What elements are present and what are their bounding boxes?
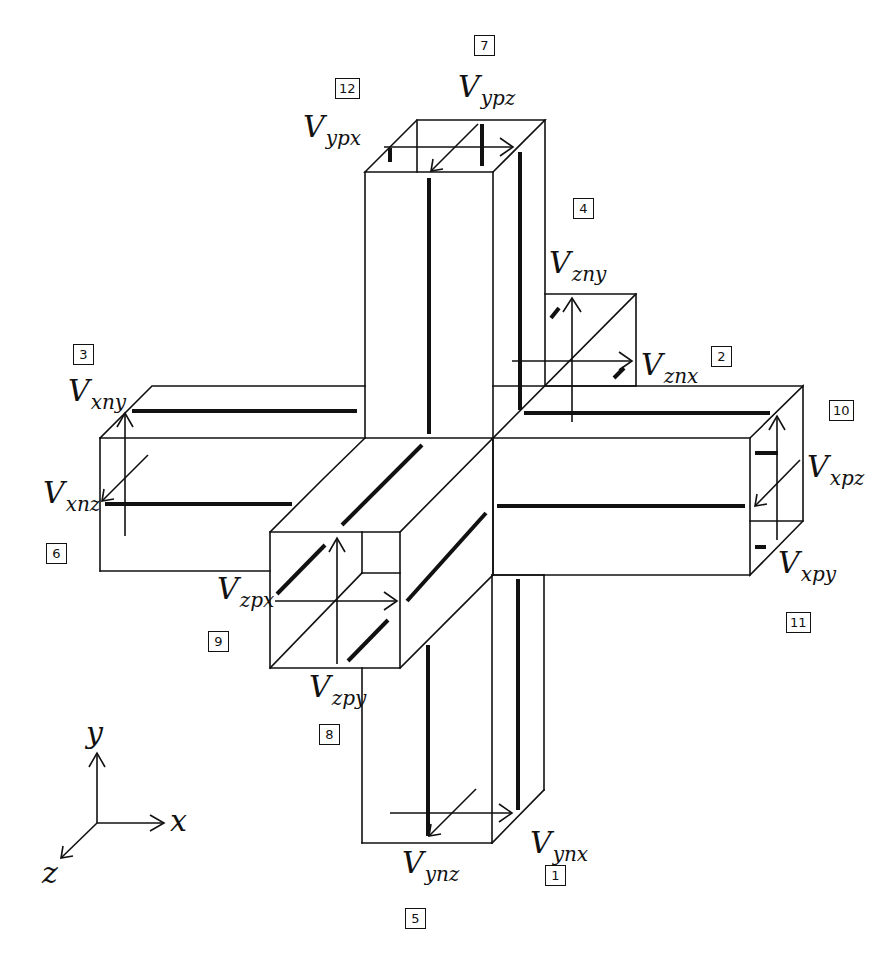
upper-arm (365, 120, 545, 438)
label-vxny: Vxny (68, 376, 126, 406)
label-vxnz: Vxnz (43, 478, 100, 508)
label-sub: xnz (66, 492, 101, 516)
label-vypz: Vypz (458, 72, 515, 102)
port-number-8: 8 (319, 724, 340, 745)
axis-label-x: x (170, 806, 187, 836)
label-sub: xpy (801, 562, 836, 586)
port-number-12: 12 (335, 78, 360, 99)
label-vxpy: Vxpy (778, 548, 836, 578)
label-vynz: Vynz (402, 848, 459, 878)
port-number-9: 9 (208, 631, 229, 652)
label-vzpy: Vzpy (309, 672, 366, 702)
label-sub: zpx (240, 588, 275, 612)
back-arm-zn (493, 294, 636, 438)
label-sub: xny (91, 390, 126, 414)
label-main: V (778, 545, 800, 580)
axis-label-z: z (42, 858, 58, 888)
label-main: V (530, 825, 552, 860)
port-number-11: 11 (786, 612, 811, 633)
label-vxpz: Vxpz (807, 452, 864, 482)
label-main: V (303, 109, 325, 144)
port-number-5: 5 (405, 908, 426, 929)
label-vznx: Vznx (641, 350, 698, 380)
label-sub: zny (572, 262, 607, 286)
port-number-7: 7 (474, 35, 495, 56)
port-number-1: 1 (545, 865, 566, 886)
front-arm-zp (270, 438, 493, 668)
label-sub: ynx (553, 842, 588, 866)
label-main: V (549, 245, 571, 280)
axis-label-y: y (86, 718, 103, 748)
left-arm-xn (100, 386, 365, 571)
label-sub: znx (664, 364, 699, 388)
label-main: V (402, 845, 424, 880)
port-number-3: 3 (73, 344, 94, 365)
label-vzny: Vzny (549, 248, 606, 278)
label-sub: ynz (425, 862, 460, 886)
label-sub: zpy (332, 686, 367, 710)
label-vzpx: Vzpx (217, 574, 274, 604)
coordinate-axes (61, 753, 164, 858)
label-sub: ypx (326, 126, 361, 150)
label-sub: ypz (481, 86, 516, 110)
label-main: V (217, 571, 239, 606)
port-number-4: 4 (573, 198, 594, 219)
label-vypx: Vypx (303, 112, 361, 142)
port-number-6: 6 (46, 543, 67, 564)
junction-diagram (0, 0, 887, 968)
label-main: V (641, 347, 663, 382)
label-sub: xpz (830, 466, 865, 490)
right-arm-xp (493, 386, 803, 575)
label-main: V (458, 69, 480, 104)
label-main: V (309, 669, 331, 704)
port-number-2: 2 (711, 346, 732, 367)
label-main: V (68, 373, 90, 408)
port-number-10: 10 (829, 400, 854, 421)
label-main: V (807, 449, 829, 484)
label-vynx: Vynx (530, 828, 588, 858)
label-main: V (43, 475, 65, 510)
